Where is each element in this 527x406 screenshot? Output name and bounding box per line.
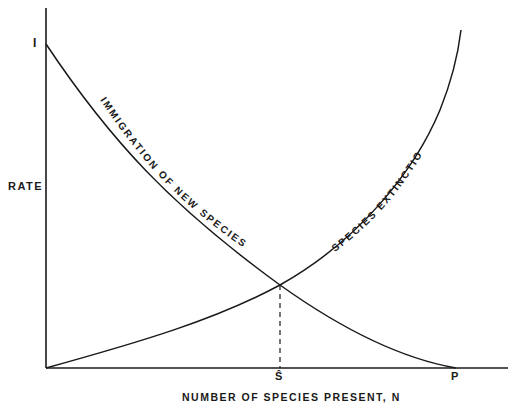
chart-canvas: IMMIGRATION OF NEW SPECIES SPECIES EXTIN…	[0, 0, 527, 406]
x-axis-label: NUMBER OF SPECIES PRESENT, N	[182, 391, 401, 403]
x-tick-p: P	[451, 370, 460, 382]
immigration-curve-label: IMMIGRATION OF NEW SPECIES	[98, 95, 249, 250]
y-tick-i: I	[33, 36, 38, 50]
extinction-curve	[46, 30, 461, 368]
x-tick-s-hat: Ŝ	[275, 370, 284, 382]
y-axis-label: RATE	[8, 180, 43, 192]
immigration-curve	[46, 44, 456, 368]
